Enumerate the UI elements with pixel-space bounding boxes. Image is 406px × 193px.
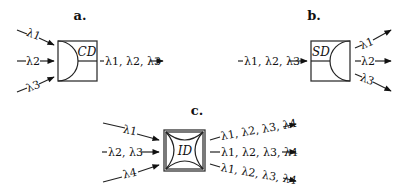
panel-c-title: c. (191, 103, 203, 118)
panel-a-combiner: a. λ1 λ2 λ3 CD λ1, λ2, λ3 (17, 8, 163, 95)
input-arrow-lambda3: λ3 (17, 77, 54, 95)
input-arrow-lambda2: λ2 (17, 55, 54, 68)
output-label: λ1, λ2, λ3, λ4 (220, 117, 298, 143)
output-label: λ1, λ2, λ3, λ4 (220, 161, 298, 187)
panel-b-title: b. (307, 8, 321, 23)
input-label: λ2 (26, 55, 40, 68)
output-arrow-lambda3: λ3 (355, 71, 391, 91)
cd-label: CD (78, 45, 97, 59)
input-label: λ4 (122, 166, 138, 182)
id-label: ID (177, 144, 193, 158)
input-label: λ2, λ3 (108, 146, 143, 159)
output-label: λ3 (358, 71, 376, 88)
output-label: λ1 (358, 35, 376, 52)
cd-device-box: CD (58, 41, 97, 81)
output-arrow-3: λ1, λ2, λ3, λ4 (210, 161, 298, 187)
input-label: λ3 (24, 78, 42, 95)
output-arrow-2: λ1, λ2, λ3, λ4 (210, 146, 298, 159)
panel-a-title: a. (74, 8, 87, 23)
input-arrow-combined: λ1, λ2, λ3 (238, 55, 307, 68)
sd-label: SD (312, 45, 330, 59)
output-label: λ2 (361, 55, 375, 68)
input-arrow-lambda2-lambda3: λ2, λ3 (102, 146, 159, 159)
output-arrow-lambda1: λ1 (355, 30, 391, 52)
output-arrow-combined: λ1, λ2, λ3 (100, 55, 163, 68)
input-arrow-lambda4: λ4 (103, 165, 159, 182)
id-device-box: ID (164, 130, 205, 171)
input-arrow-lambda1: λ1 (103, 123, 159, 140)
sd-device-box: SD (311, 41, 350, 81)
input-arrow-lambda1: λ1 (17, 26, 54, 45)
panel-b-splitter: b. λ1, λ2, λ3 SD λ1 λ2 λ3 (238, 8, 391, 91)
output-arrow-lambda2: λ2 (355, 55, 391, 68)
input-label: λ1 (122, 123, 138, 139)
panel-c-interleaver: c. λ1 λ2, λ3 λ4 ID (102, 103, 298, 187)
output-arrow-1: λ1, λ2, λ3, λ4 (210, 117, 298, 143)
input-label: λ1 (25, 26, 43, 43)
wavelength-device-diagram: a. λ1 λ2 λ3 CD λ1, λ2, λ3 (0, 0, 406, 193)
